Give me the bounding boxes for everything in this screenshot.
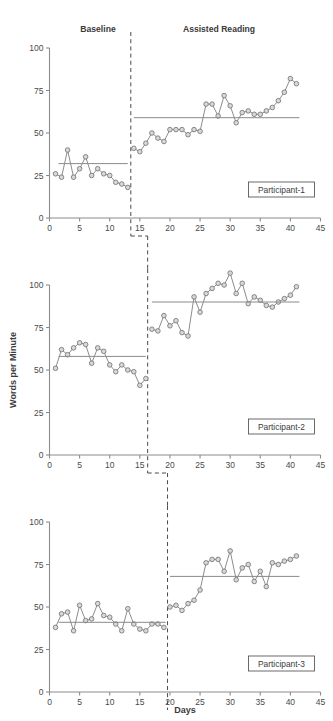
data-point-baseline (125, 368, 130, 373)
data-point-intervention (204, 561, 209, 566)
data-point-baseline (138, 383, 143, 388)
x-tick-label: 30 (225, 460, 235, 470)
x-tick-label: 25 (195, 460, 205, 470)
data-point-baseline (107, 615, 112, 620)
data-point-intervention (186, 334, 191, 339)
data-point-intervention (294, 81, 299, 86)
data-point-baseline (107, 173, 112, 178)
data-point-intervention (276, 562, 281, 567)
y-tick-label: 25 (34, 171, 44, 181)
data-point-intervention (174, 603, 179, 608)
y-tick-label: 25 (34, 408, 44, 418)
data-point-baseline (125, 185, 130, 190)
data-point-intervention (210, 557, 215, 562)
data-point-baseline (138, 627, 143, 632)
data-point-baseline (119, 363, 124, 368)
x-tick-label: 35 (256, 697, 266, 707)
data-point-intervention (258, 112, 263, 117)
data-point-intervention (180, 330, 185, 335)
data-point-intervention (192, 127, 197, 132)
data-point-baseline (83, 155, 88, 160)
data-point-intervention (264, 584, 269, 589)
x-tick-label: 5 (77, 697, 82, 707)
data-point-intervention (180, 127, 185, 132)
data-point-baseline (65, 610, 70, 615)
data-point-intervention (294, 284, 299, 289)
data-point-baseline (95, 166, 100, 171)
data-point-intervention (288, 76, 293, 81)
y-tick-label: 0 (39, 450, 44, 460)
x-tick-label: 0 (47, 697, 52, 707)
x-tick-label: 40 (286, 697, 296, 707)
x-tick-label: 45 (316, 697, 326, 707)
data-point-intervention (204, 291, 209, 296)
x-tick-label: 0 (47, 460, 52, 470)
data-point-intervention (198, 310, 203, 315)
participant-label-text: Participant-1 (258, 185, 305, 195)
data-point-baseline (144, 629, 149, 634)
data-point-intervention (210, 102, 215, 107)
data-point-baseline (132, 369, 137, 374)
y-tick-label: 50 (34, 128, 44, 138)
x-tick-label: 25 (195, 223, 205, 233)
data-point-intervention (132, 146, 137, 151)
data-point-baseline (59, 347, 64, 352)
x-tick-label: 10 (105, 223, 115, 233)
data-point-intervention (180, 608, 185, 613)
data-point-baseline (113, 180, 118, 185)
x-tick-label: 30 (225, 223, 235, 233)
data-point-intervention (168, 324, 173, 329)
participant-label-text: Participant-2 (258, 422, 305, 432)
data-point-intervention (162, 139, 167, 144)
x-tick-label: 35 (256, 460, 266, 470)
data-point-intervention (276, 98, 281, 103)
data-point-baseline (101, 349, 106, 354)
data-point-intervention (156, 329, 161, 334)
participant-label-text: Participant-3 (258, 659, 305, 669)
data-point-intervention (234, 121, 239, 126)
data-point-intervention (228, 271, 233, 276)
x-tick-label: 15 (135, 697, 145, 707)
x-tick-label: 15 (135, 460, 145, 470)
data-point-baseline (71, 346, 76, 351)
data-point-intervention (186, 132, 191, 137)
data-point-intervention (228, 549, 233, 554)
data-point-baseline (89, 173, 94, 178)
x-tick-label: 20 (165, 460, 175, 470)
data-point-intervention (228, 104, 233, 109)
data-point-baseline (59, 612, 64, 617)
data-point-intervention (252, 295, 257, 300)
x-tick-label: 35 (256, 223, 266, 233)
data-point-baseline (83, 342, 88, 347)
data-point-baseline (71, 175, 76, 180)
data-point-intervention (288, 557, 293, 562)
data-point-intervention (150, 327, 155, 332)
data-point-intervention (240, 281, 245, 286)
data-point-baseline (101, 172, 106, 177)
data-point-intervention (270, 305, 275, 310)
data-point-baseline (53, 172, 58, 177)
data-point-intervention (168, 605, 173, 610)
data-point-intervention (210, 286, 215, 291)
data-point-intervention (222, 283, 227, 288)
x-tick-label: 40 (286, 223, 296, 233)
x-tick-label: 10 (105, 697, 115, 707)
y-tick-label: 0 (39, 687, 44, 697)
data-point-intervention (240, 110, 245, 115)
y-tick-label: 25 (34, 645, 44, 655)
data-point-intervention (186, 601, 191, 606)
data-point-intervention (270, 561, 275, 566)
y-tick-label: 75 (34, 560, 44, 570)
data-point-intervention (216, 281, 221, 286)
x-tick-label: 45 (316, 223, 326, 233)
data-point-intervention (174, 127, 179, 132)
data-point-baseline (65, 148, 70, 153)
data-point-intervention (138, 149, 143, 154)
series-line-baseline (56, 343, 146, 386)
data-point-intervention (282, 296, 287, 301)
data-point-baseline (71, 629, 76, 634)
data-point-baseline (95, 346, 100, 351)
y-tick-label: 100 (29, 517, 43, 527)
data-point-baseline (162, 625, 167, 630)
data-point-baseline (89, 617, 94, 622)
